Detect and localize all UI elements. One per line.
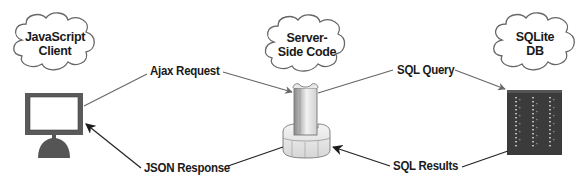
cloud-label-line: DB bbox=[502, 44, 568, 58]
database-rack-icon bbox=[507, 90, 562, 155]
cloud-label-line: JavaScript bbox=[22, 30, 88, 44]
monitor-icon bbox=[25, 93, 83, 158]
edge-label-ajax-request: Ajax Request bbox=[150, 64, 220, 78]
cloud-label-line: Client bbox=[22, 44, 88, 58]
cloud-label-line: Server- bbox=[272, 31, 342, 45]
diagram-canvas bbox=[0, 0, 583, 186]
edge-label-sql-query: SQL Query bbox=[397, 63, 454, 77]
cloud-label-line: SQLite bbox=[502, 30, 568, 44]
server-column-icon bbox=[283, 84, 330, 158]
edge-label-sql-results: SQL Results bbox=[393, 159, 458, 173]
cloud-label-line: Side Code bbox=[272, 45, 342, 59]
edge-label-json-response: JSON Response bbox=[144, 161, 230, 175]
cloud-label-server: Server- Side Code bbox=[272, 31, 342, 59]
cloud-label-db: SQLite DB bbox=[502, 30, 568, 58]
cloud-label-client: JavaScript Client bbox=[22, 30, 88, 58]
